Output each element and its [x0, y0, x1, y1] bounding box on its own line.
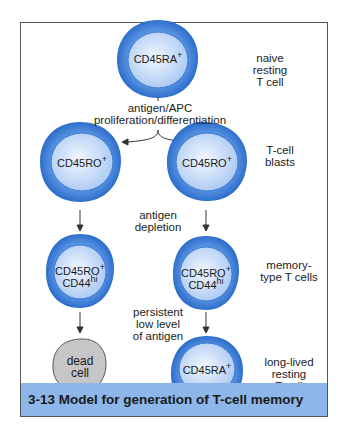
cell-blast-left-label: CD45RO+ [42, 157, 122, 169]
label-memory: memory-type T cells [254, 259, 324, 283]
label-blasts: T-cellblasts [250, 144, 310, 168]
cell-dead-label: deadcell [40, 355, 120, 379]
label-activation: antigen/APCproliferation/differentiation [60, 102, 260, 126]
cell-memory-left-label: CD45RO+CD44hi [40, 265, 120, 289]
caption-text: 3-13 Model for generation of T-cell memo… [28, 392, 303, 407]
cell-naive-label: CD45RA+ [118, 53, 198, 65]
cell-long-lived-label: CD45RA+ [167, 364, 247, 376]
figure-caption: 3-13 Model for generation of T-cell memo… [21, 383, 327, 416]
cell-blast-right-label: CD45RO+ [167, 157, 247, 169]
label-persistent: persistentlow levelof antigen [113, 306, 203, 342]
label-naive: naiverestingT cell [240, 52, 300, 88]
label-depletion: antigendepletion [113, 209, 203, 233]
cell-memory-right-label: CD45RO+CD44hi [166, 267, 246, 291]
